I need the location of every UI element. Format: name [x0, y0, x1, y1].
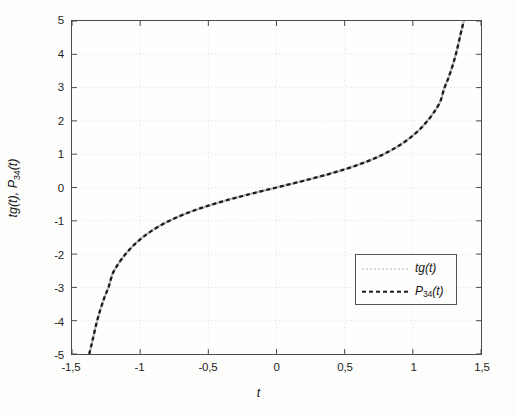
y-tick-label: -2: [23, 249, 64, 261]
y-tick-label: -3: [23, 282, 64, 294]
figure-canvas: tg(t), P34(t) t -5-4-3-2-1012345 -1,5-1-…: [0, 0, 517, 417]
x-tick-label: -1: [135, 361, 145, 373]
x-tick-label: -1,5: [61, 361, 80, 373]
legend-entry-tg[interactable]: tg(t): [356, 256, 456, 281]
x-axis-label-text: t: [257, 386, 260, 400]
y-tick-label: 5: [23, 14, 64, 26]
legend-label-tg: tg(t): [415, 261, 436, 276]
legend-swatch-pade-icon: [362, 287, 408, 297]
y-tick-label: 4: [23, 48, 64, 60]
y-axis-label-pre: tg(t), P: [6, 180, 20, 218]
y-tick-label: -1: [23, 215, 64, 227]
y-axis-label-subscript: 34: [12, 170, 22, 180]
y-axis-label: tg(t), P34(t): [6, 159, 22, 218]
y-tick-label: -4: [23, 316, 64, 328]
y-tick-label: 0: [23, 182, 64, 194]
x-tick-label: 0,5: [337, 361, 352, 373]
x-tick-label: 0: [273, 361, 279, 373]
y-tick-label: 3: [23, 81, 64, 93]
x-axis-label: t: [0, 386, 517, 400]
legend-swatch-tg-icon: [362, 264, 408, 274]
x-tick-label: -0,5: [198, 361, 217, 373]
y-tick-label: -5: [23, 349, 64, 361]
legend-label-pade: P34(t): [415, 284, 444, 299]
y-axis-label-post: (t): [6, 159, 20, 171]
legend-entry-pade[interactable]: P34(t): [356, 279, 456, 304]
legend[interactable]: tg(t) P34(t): [355, 254, 457, 305]
x-tick-label: 1: [410, 361, 416, 373]
x-tick-label: 1,5: [474, 361, 489, 373]
y-tick-label: 2: [23, 115, 64, 127]
y-tick-label: 1: [23, 148, 64, 160]
